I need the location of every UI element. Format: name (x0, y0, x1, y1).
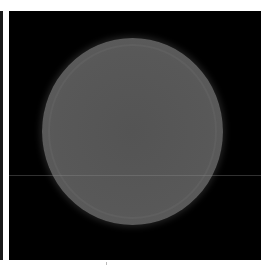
disk-edge-ring (48, 44, 217, 219)
image-canvas (0, 0, 269, 265)
horizontal-scan-line (9, 175, 261, 176)
adjacent-panel-edge (0, 11, 3, 260)
image-panel (9, 11, 261, 260)
